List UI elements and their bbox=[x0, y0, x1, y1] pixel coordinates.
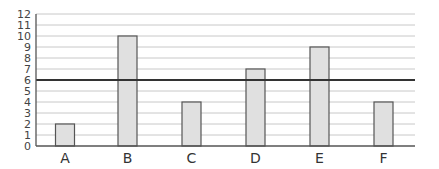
x-tick-label: C bbox=[187, 150, 197, 166]
grid-lines bbox=[36, 14, 415, 135]
bar-e bbox=[310, 47, 329, 146]
bar-chart: 0123456789101112 ABCDEF bbox=[0, 0, 439, 169]
x-axis-labels: ABCDEF bbox=[60, 150, 387, 166]
x-tick-label: F bbox=[379, 150, 387, 166]
x-tick-label: D bbox=[250, 150, 261, 166]
y-tick-label: 12 bbox=[17, 8, 31, 21]
bar-c bbox=[182, 102, 201, 146]
x-tick-label: A bbox=[60, 150, 70, 166]
bar-b bbox=[118, 36, 137, 146]
bar-a bbox=[56, 124, 75, 146]
x-tick-label: B bbox=[123, 150, 133, 166]
bar-f bbox=[374, 102, 393, 146]
x-tick-label: E bbox=[315, 150, 324, 166]
y-axis-ticks: 0123456789101112 bbox=[17, 8, 31, 153]
